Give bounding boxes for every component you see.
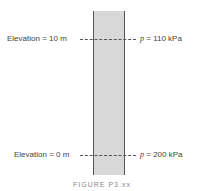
figure-caption: FIGURE P3.xx [62,181,142,191]
pressure-symbol: p [140,150,144,159]
top-pressure-label: p = 110 kPa [140,34,182,43]
top-elevation-label: Elevation = 10 m [7,34,67,43]
bottom-level-dashed-line [80,155,136,156]
pressure-symbol: p [140,34,144,43]
bottom-elevation-label: Elevation = 0 m [14,150,69,159]
fluid-column [93,11,125,175]
top-level-dashed-line [80,39,136,40]
bottom-pressure-label: p = 200 kPa [140,150,182,159]
top-pressure-value: = 110 kPa [146,34,182,43]
bottom-pressure-value: = 200 kPa [146,150,182,159]
